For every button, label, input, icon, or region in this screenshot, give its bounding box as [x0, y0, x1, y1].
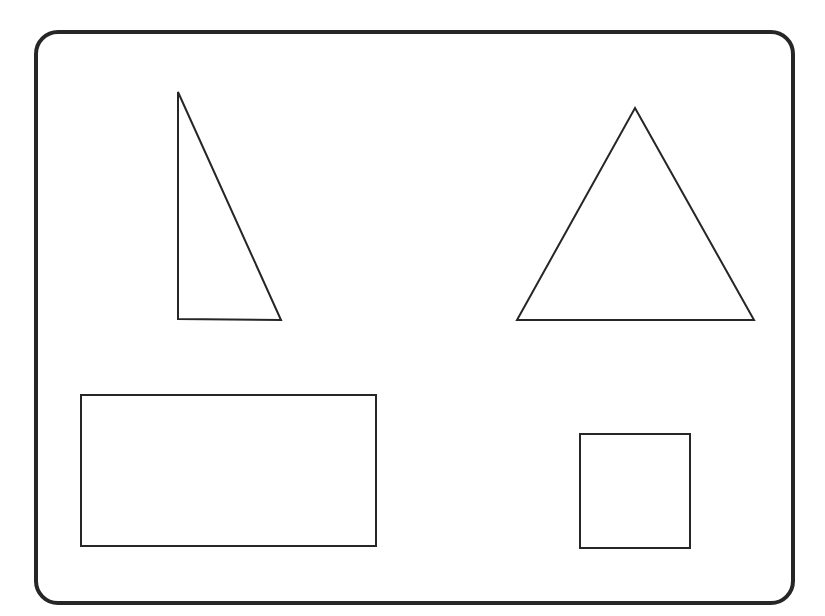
- shapes-canvas: [0, 0, 825, 616]
- shapes-drawing-surface: [0, 0, 825, 616]
- canvas-background: [0, 0, 825, 616]
